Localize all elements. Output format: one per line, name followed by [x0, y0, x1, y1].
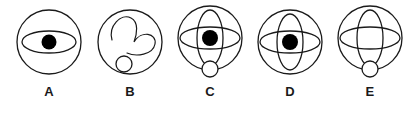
- vertical-ellipse: [357, 10, 383, 66]
- option-label-a: A: [8, 84, 90, 100]
- small-circle: [116, 56, 132, 72]
- small-circle: [202, 61, 218, 77]
- figure-c[interactable]: [169, 4, 251, 82]
- horizontal-ellipse: [340, 27, 400, 49]
- center-dot: [282, 34, 298, 50]
- distorted-curve: [111, 17, 155, 55]
- answer-option-e[interactable]: E: [329, 0, 411, 113]
- center-dot: [42, 35, 57, 50]
- figure-b[interactable]: [89, 4, 171, 82]
- outer-circle: [98, 10, 162, 74]
- answer-options-row: A B C: [0, 0, 411, 113]
- figure-e[interactable]: [329, 4, 411, 82]
- option-label-d: D: [249, 84, 331, 100]
- figure-d[interactable]: [249, 4, 331, 82]
- answer-option-a[interactable]: A: [8, 0, 90, 113]
- answer-option-d[interactable]: D: [249, 0, 331, 113]
- option-label-e: E: [329, 84, 411, 100]
- option-label-b: B: [89, 84, 171, 100]
- answer-option-b[interactable]: B: [89, 0, 171, 113]
- small-circle: [362, 61, 378, 77]
- option-label-c: C: [169, 84, 251, 100]
- answer-option-c[interactable]: C: [169, 0, 251, 113]
- center-dot: [202, 30, 218, 46]
- figure-a[interactable]: [8, 4, 90, 82]
